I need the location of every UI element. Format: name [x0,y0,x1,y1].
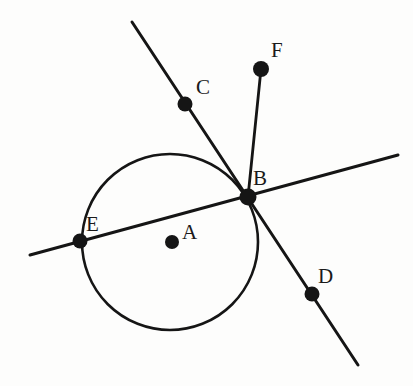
point-dot-C [178,97,193,112]
geometry-figure: A B C D E F [0,0,413,386]
point-label-F: F [271,40,283,61]
point-dot-A [165,235,179,249]
point-label-C: C [196,77,210,98]
point-label-B: B [253,168,267,189]
point-label-D: D [318,266,333,287]
point-dot-D [305,287,320,302]
point-label-A: A [182,222,197,243]
geometry-canvas [0,0,413,386]
point-dot-F [253,61,269,77]
point-label-E: E [86,214,99,235]
point-dot-B [240,189,257,206]
